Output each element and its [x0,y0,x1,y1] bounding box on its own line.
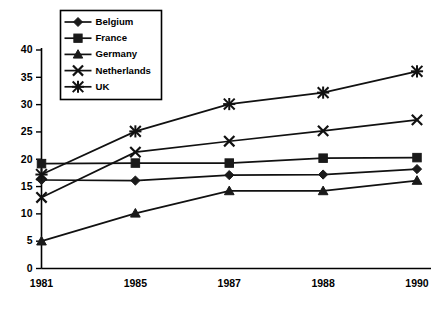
y-tick-label: 20 [21,153,33,165]
data-point-marker [319,154,327,162]
x-tick-label: 1988 [311,277,335,289]
line-chart: 0510152025303540 19811985198719881990 Be… [0,0,440,309]
y-tick-label: 10 [21,207,33,219]
legend-item-label: France [96,32,127,43]
legend-item-label: Netherlands [96,65,151,76]
data-point-marker [413,153,421,161]
chart-canvas: 0510152025303540 19811985198719881990 Be… [0,0,440,309]
y-tick-label: 35 [21,71,33,83]
data-point-marker [131,159,139,167]
y-tick-label: 30 [21,98,33,110]
x-tick-label: 1985 [124,277,148,289]
legend-item-label: Belgium [96,16,134,27]
x-tick-label: 1987 [218,277,242,289]
y-tick-label: 15 [21,180,33,192]
legend-marker-square [74,34,82,42]
y-tick-label: 40 [21,43,33,55]
legend-item-label: UK [96,81,110,92]
x-tick-label: 1990 [405,277,429,289]
data-point-marker [225,159,233,167]
legend-item-france[interactable]: France [65,32,127,43]
data-point-marker [37,159,45,167]
y-tick-label: 0 [27,262,33,274]
chart-legend[interactable]: BelgiumFranceGermanyNetherlandsUK [61,11,162,100]
x-tick-label: 1981 [30,277,54,289]
y-tick-label: 5 [27,234,33,246]
y-tick-label: 25 [21,125,33,137]
legend-item-label: Germany [96,48,138,59]
